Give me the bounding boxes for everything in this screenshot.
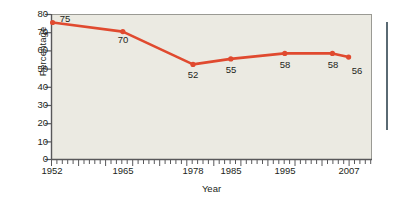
data-point-1978: [190, 62, 195, 67]
x-tick-label-1952: 1952: [30, 166, 74, 176]
y-tick-label-10: 10: [22, 137, 48, 147]
data-series-line: [53, 23, 349, 65]
y-tick-label-0: 0: [22, 154, 48, 164]
page-margin-rule: [386, 22, 388, 130]
data-point-2004: [330, 51, 335, 56]
data-point-1985: [228, 56, 233, 61]
x-axis-title: Year: [51, 183, 372, 194]
data-label-70: 70: [110, 35, 136, 45]
line-chart-figure: 80 70 60 50 40 30 20 10 0 1952 1965 1978…: [0, 0, 400, 206]
y-axis-title: Percentage: [37, 0, 48, 112]
y-tick-label-20: 20: [22, 118, 48, 128]
x-tick-label-1995: 1995: [263, 166, 307, 176]
data-label-58: 58: [272, 60, 298, 70]
x-tick-label-2007: 2007: [327, 166, 371, 176]
x-tick-label-1985: 1985: [209, 166, 253, 176]
data-label-52: 52: [180, 70, 206, 80]
data-point-1995: [282, 51, 287, 56]
data-label-55: 55: [218, 65, 244, 75]
data-label-56: 56: [344, 66, 370, 76]
data-label-58-2004: 58: [320, 60, 346, 70]
x-tick-label-1965: 1965: [101, 166, 145, 176]
data-label-75: 75: [52, 14, 78, 24]
data-point-2007: [346, 55, 351, 60]
